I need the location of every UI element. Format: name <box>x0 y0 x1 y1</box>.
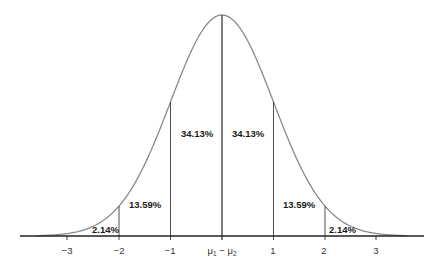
tick-label-plus3: 3 <box>373 245 378 256</box>
region-label-minus1-mean: 34.13% <box>181 128 214 139</box>
region-label-minus3-minus2: 2.14% <box>92 224 119 235</box>
tick-label-plus1: 1 <box>270 245 275 256</box>
region-label-plus1-plus2: 13.59% <box>283 199 316 210</box>
tick-label-minus1: −1 <box>165 245 176 256</box>
tick-label-plus2: 2 <box>321 245 326 256</box>
region-label-mean-plus1: 34.13% <box>232 128 265 139</box>
normal-distribution-chart: 2.14% 13.59% 34.13% 34.13% 13.59% 2.14% … <box>0 0 441 270</box>
tick-label-minus2: −2 <box>114 245 125 256</box>
tick-label-minus3: −3 <box>62 245 73 256</box>
region-label-plus2-plus3: 2.14% <box>329 224 356 235</box>
tick-label-mean: μ1 − μ2 <box>207 245 236 257</box>
region-label-minus2-minus1: 13.59% <box>129 199 162 210</box>
